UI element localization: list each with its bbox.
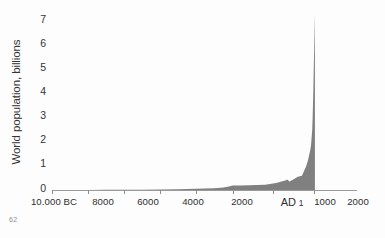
x-tick-mark-8000 bbox=[88, 190, 89, 194]
y-tick-label-4: 4 bbox=[30, 86, 46, 96]
ad-year-text: 1 bbox=[299, 198, 304, 208]
x-tick-label-1000: 1000 bbox=[314, 196, 336, 207]
x-tick-label-6000: 6000 bbox=[137, 196, 159, 207]
x-tick-label-10000bc: 10.000 BC bbox=[31, 196, 77, 207]
ad-era-text: AD bbox=[281, 196, 296, 208]
x-tick-mark-2000bc bbox=[196, 190, 197, 194]
x-tick-mark-4000 bbox=[160, 190, 161, 194]
y-tick-label-0: 0 bbox=[30, 183, 46, 193]
x-tick-label-ad1: AD 1 bbox=[281, 196, 304, 208]
y-tick-label-6: 6 bbox=[30, 38, 46, 48]
page-number-footnote: 62 bbox=[9, 216, 17, 223]
x-tick-label-8000: 8000 bbox=[92, 196, 114, 207]
y-tick-label-1: 1 bbox=[30, 158, 46, 168]
x-tick-mark-10000bc bbox=[52, 190, 53, 194]
y-axis-title: World population, billions bbox=[9, 22, 23, 182]
y-tick-label-3: 3 bbox=[30, 110, 46, 120]
y-tick-label-2: 2 bbox=[30, 134, 46, 144]
plot-area bbox=[52, 8, 357, 190]
x-tick-mark-2000ad bbox=[314, 190, 315, 194]
x-tick-mark-6000 bbox=[124, 190, 125, 194]
x-tick-mark-1000 bbox=[273, 190, 274, 194]
figure-world-population: World population, billions 0 1 2 3 4 5 6… bbox=[0, 0, 385, 238]
x-tick-label-2000bc: 2000 bbox=[231, 196, 253, 207]
x-tick-mark-ad1 bbox=[233, 190, 234, 194]
x-tick-label-4000: 4000 bbox=[182, 196, 204, 207]
x-tick-label-2000ad: 2000 bbox=[347, 196, 369, 207]
y-tick-label-5: 5 bbox=[30, 62, 46, 72]
population-area-series bbox=[52, 8, 357, 190]
y-tick-label-7: 7 bbox=[30, 14, 46, 24]
x-axis-line bbox=[52, 190, 357, 191]
